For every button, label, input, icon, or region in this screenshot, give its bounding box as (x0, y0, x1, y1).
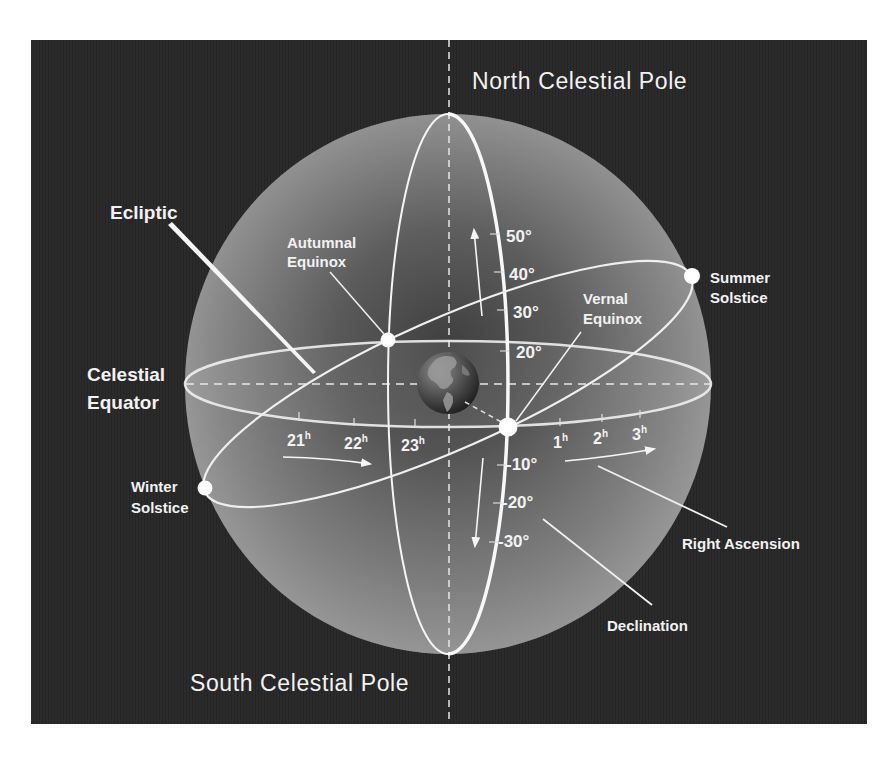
dec-label-neg20: -20° (502, 493, 534, 512)
dec-label-neg30: -30° (498, 532, 530, 551)
celestial-sphere-diagram: North Celestial Pole South Celestial Pol… (0, 0, 896, 759)
vernal-equinox-point (499, 418, 518, 437)
celestial-equator-label-line1: Celestial (87, 364, 165, 385)
celestial-equator-label-line2: Equator (87, 392, 159, 413)
declination-label: Declination (607, 617, 688, 634)
dec-label-20: 20° (516, 343, 542, 362)
winter-solstice-point (198, 481, 213, 496)
summer-solstice-point (684, 268, 700, 284)
winter-solstice-label-line2: Solstice (131, 499, 189, 516)
dec-label-neg10: -10° (506, 455, 538, 474)
dec-label-40: 40° (509, 265, 535, 284)
north-celestial-pole-label: North Celestial Pole (472, 68, 687, 94)
vernal-equinox-label-line2: Equinox (583, 310, 643, 327)
autumnal-equinox-point (381, 333, 396, 348)
summer-solstice-label-line1: Summer (710, 269, 770, 286)
summer-solstice-label-line2: Solstice (710, 289, 768, 306)
earth-globe-icon (417, 352, 479, 414)
right-ascension-label: Right Ascension (682, 535, 800, 552)
vernal-equinox-label-line1: Vernal (583, 290, 628, 307)
dec-label-50: 50° (506, 227, 532, 246)
autumnal-equinox-label-line1: Autumnal (287, 234, 356, 251)
dec-label-30: 30° (513, 303, 539, 322)
ecliptic-label: Ecliptic (110, 202, 178, 223)
winter-solstice-label-line1: Winter (131, 478, 178, 495)
autumnal-equinox-label-line2: Equinox (287, 253, 347, 270)
south-celestial-pole-label: South Celestial Pole (190, 670, 409, 696)
